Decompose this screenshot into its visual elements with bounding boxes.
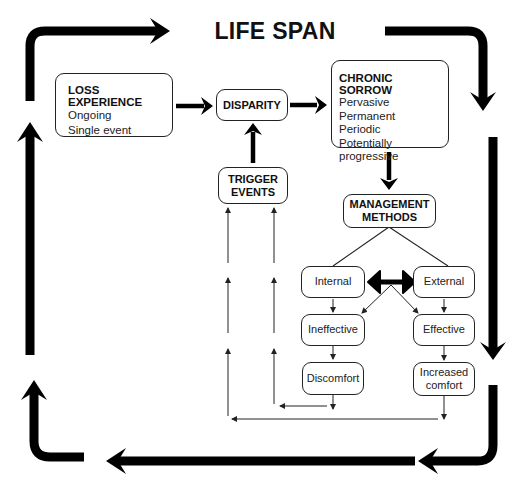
ineffective-box: Ineffective [301,314,365,346]
increased-comfort-box: Increased comfort [413,362,475,396]
frame-arrow-bottom-right [428,385,493,461]
effective-box: Effective [413,314,475,346]
loss-experience-item: Ongoing [68,108,172,123]
loss-experience-heading: LOSS EXPERIENCE [68,84,172,108]
chronic-sorrow-item: Periodic [339,123,448,137]
loss-experience-item: Single event [68,123,172,138]
increased-comfort-line2: comfort [426,379,463,393]
frame-arrow-bottom-left [34,392,84,457]
discomfort-label: Discomfort [307,372,360,386]
increased-comfort-line1: Increased [420,366,468,380]
trigger-events-box: TRIGGER EVENTS [218,167,288,204]
chronic-sorrow-item: Pervasive [339,96,448,110]
discomfort-box: Discomfort [302,362,364,395]
cross-arrows [362,285,418,313]
internal-box: Internal [301,266,365,298]
trigger-events-line2: EVENTS [231,186,275,199]
page-title: LIFE SPAN [210,18,340,45]
chronic-sorrow-item: Permanent [339,110,448,124]
internal-label: Internal [315,275,352,289]
chronic-sorrow-box: CHRONIC SORROW Pervasive Permanent Perio… [331,60,449,148]
bidirectional-arrow-icon [368,271,415,293]
ineffective-label: Ineffective [308,323,358,337]
external-label: External [424,275,464,289]
management-methods-line2: METHODS [362,211,417,224]
external-box: External [413,266,475,298]
loss-experience-box: LOSS EXPERIENCE Ongoing Single event [55,73,173,137]
disparity-label: DISPARITY [223,98,281,113]
management-branch-lines [333,227,448,266]
chronic-sorrow-item: Potentially progressive [339,137,448,164]
feedback-vertical-arrows [228,208,274,416]
chronic-sorrow-heading: CHRONIC SORROW [339,72,448,96]
effective-label: Effective [423,323,465,337]
feedback-lines [232,406,438,419]
management-methods-line1: MANAGEMENT [349,198,429,211]
disparity-box: DISPARITY [216,89,288,121]
trigger-events-line1: TRIGGER [228,173,278,186]
management-methods-box: MANAGEMENT METHODS [343,194,436,228]
